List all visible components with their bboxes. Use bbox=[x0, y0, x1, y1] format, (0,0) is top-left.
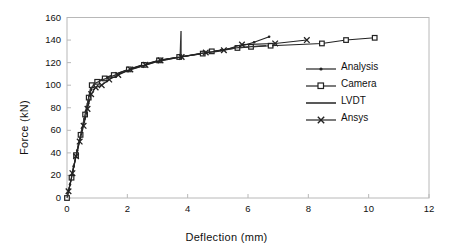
legend-marker-x-icon bbox=[305, 112, 337, 124]
chart-container: Force (kN) Deflection (mm) 0204060801001… bbox=[0, 0, 453, 247]
series-line bbox=[67, 37, 269, 198]
x-tick-label: 10 bbox=[357, 203, 381, 214]
data-point-marker bbox=[268, 35, 271, 38]
series-ansys bbox=[66, 37, 310, 194]
x-tick-label: 12 bbox=[417, 203, 441, 214]
series-line bbox=[69, 40, 307, 191]
x-tick-label: 8 bbox=[296, 203, 320, 214]
y-tick-label: 40 bbox=[35, 147, 61, 158]
x-axis-title: Deflection (mm) bbox=[0, 231, 453, 243]
legend-item-camera[interactable]: Camera bbox=[305, 75, 425, 92]
y-tick-label: 160 bbox=[35, 12, 61, 23]
data-point-marker bbox=[344, 38, 349, 43]
legend-marker-dot-icon bbox=[305, 61, 337, 73]
y-tick-label: 120 bbox=[35, 57, 61, 68]
legend-item-ansys[interactable]: Ansys bbox=[305, 109, 425, 126]
y-tick-label: 100 bbox=[35, 79, 61, 90]
x-tick-label: 0 bbox=[55, 203, 79, 214]
legend-label: Camera bbox=[337, 78, 377, 89]
x-tick-label: 2 bbox=[115, 203, 139, 214]
legend-item-lvdt[interactable]: LVDT bbox=[305, 92, 425, 109]
data-point-marker bbox=[320, 41, 325, 46]
y-tick-label: 20 bbox=[35, 169, 61, 180]
series-line bbox=[67, 31, 266, 198]
y-tick-label: 80 bbox=[35, 102, 61, 113]
legend-item-analysis[interactable]: Analysis bbox=[305, 58, 425, 75]
y-tick-label: 140 bbox=[35, 34, 61, 45]
legend-label: LVDT bbox=[337, 95, 366, 106]
y-axis-title: Force (kN) bbox=[18, 100, 30, 155]
legend-marker-none-icon bbox=[305, 95, 337, 107]
chart-legend: AnalysisCameraLVDTAnsys bbox=[305, 58, 425, 126]
x-tick-label: 4 bbox=[176, 203, 200, 214]
legend-label: Ansys bbox=[337, 112, 368, 123]
y-tick-label: 0 bbox=[35, 192, 61, 203]
data-point-marker bbox=[372, 36, 377, 41]
x-tick-label: 6 bbox=[236, 203, 260, 214]
legend-marker-square-icon bbox=[305, 78, 337, 90]
y-tick-label: 60 bbox=[35, 124, 61, 135]
data-point-marker bbox=[253, 41, 256, 44]
data-point-marker bbox=[99, 82, 105, 88]
legend-label: Analysis bbox=[337, 61, 378, 72]
series-lvdt bbox=[67, 31, 266, 198]
